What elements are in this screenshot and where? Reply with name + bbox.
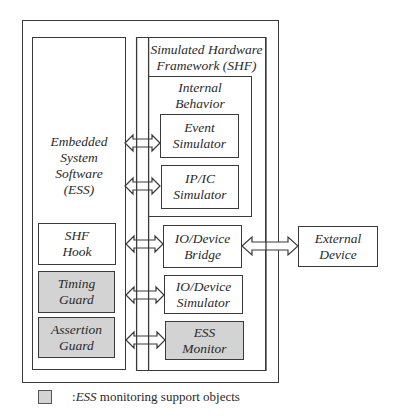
arrow-bridge-external-device [242,237,298,255]
legend-text: :ESS monitoring support objects [72,389,240,405]
legend-emphasis: ESS [76,389,97,404]
legend-swatch [38,390,52,404]
arrow-shf-hook-bridge [126,236,163,252]
arrow-assertion-guard-ess-monitor [126,332,165,348]
arrow-ess-event-simulator [125,135,160,151]
arrow-ess-ip-ic-simulator [125,178,160,194]
legend-description: monitoring support objects [97,389,240,404]
arrow-timing-guard-io-simulator [126,287,164,303]
connection-arrows [0,0,398,417]
